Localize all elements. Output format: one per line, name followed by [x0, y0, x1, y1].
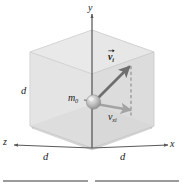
- cube-diagram-svg: [0, 0, 182, 185]
- physics-figure: y x z d d d m0 v i vxi: [0, 0, 182, 185]
- dimension-label-right: d: [120, 152, 125, 163]
- mass-label: m0: [68, 93, 78, 103]
- y-axis-label: y: [88, 3, 92, 13]
- particle-sphere: [86, 95, 100, 109]
- footer-rule-right: [95, 180, 179, 182]
- footer-rule-left: [3, 180, 88, 182]
- velocity-x-subscript: xi: [112, 116, 116, 123]
- velocity-x-component-label: vxi: [108, 112, 117, 122]
- dimension-label-front: d: [43, 152, 48, 163]
- velocity-subscript: i: [112, 56, 114, 63]
- mass-subscript: 0: [75, 97, 78, 104]
- velocity-vector-label: v i: [108, 52, 114, 62]
- dimension-label-left: d: [21, 86, 26, 97]
- z-axis-label: z: [3, 137, 7, 147]
- vector-overarrow-icon: [108, 48, 115, 53]
- x-axis-label: x: [170, 139, 174, 149]
